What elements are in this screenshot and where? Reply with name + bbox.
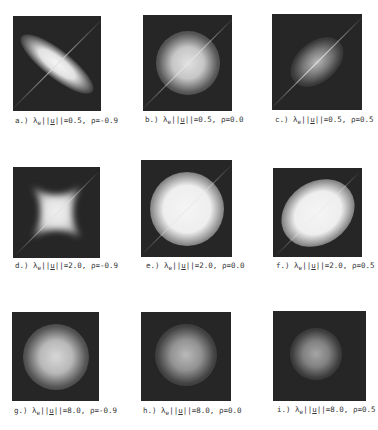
lambda-u-value: =2.0, bbox=[325, 261, 348, 270]
caption-d: d.) λe||u||=2.0, ρ=-0.9 bbox=[15, 261, 118, 271]
lambda-subscript: e bbox=[38, 264, 42, 271]
u-vector: u bbox=[50, 261, 55, 270]
lambda-subscript: e bbox=[169, 264, 173, 271]
panel-i-image bbox=[273, 311, 366, 401]
lambda-u-value: =2.0, bbox=[195, 261, 218, 270]
lambda-u-value: =8.0, bbox=[326, 405, 349, 414]
caption-letter: h.) bbox=[143, 406, 157, 415]
rho-value: ρ=-0.9 bbox=[90, 406, 117, 415]
rho-value: ρ=0.0 bbox=[221, 115, 244, 124]
caption-letter: b.) bbox=[145, 115, 159, 124]
panel-h-image bbox=[141, 312, 231, 401]
lambda-subscript: e bbox=[37, 409, 41, 416]
panel-f-image bbox=[273, 168, 362, 257]
rho-value: ρ=0.5 bbox=[351, 115, 374, 124]
caption-c: c.) λe||u||=0.5, ρ=0.5 bbox=[275, 115, 373, 125]
u-vector: u bbox=[50, 116, 55, 125]
panel-e-image bbox=[141, 160, 232, 257]
panel-d-image bbox=[13, 167, 100, 258]
caption-a: a.) λe||u||=0.5, ρ=-0.9 bbox=[15, 116, 118, 126]
rho-value: ρ=-0.9 bbox=[91, 261, 118, 270]
lambda-u-value: =8.0, bbox=[63, 406, 86, 415]
panel-c-image bbox=[272, 14, 362, 110]
caption-letter: c.) bbox=[275, 115, 289, 124]
rho-value: ρ=-0.9 bbox=[91, 116, 118, 125]
caption-g: g.) λe||u||=8.0, ρ=-0.9 bbox=[14, 406, 117, 416]
intensity-blob bbox=[23, 324, 89, 390]
u-vector: u bbox=[180, 115, 185, 124]
u-vector: u bbox=[311, 261, 316, 270]
caption-b: b.) λe||u||=0.5, ρ=0.0 bbox=[145, 115, 243, 125]
lambda-u-value: =0.5, bbox=[194, 115, 217, 124]
caption-letter: i.) bbox=[277, 405, 291, 414]
caption-e: e.) λe||u||=2.0, ρ=0.0 bbox=[146, 261, 244, 271]
lambda-u-value: =2.0, bbox=[64, 261, 87, 270]
caption-f: f.) λe||u||=2.0, ρ=0.5 bbox=[276, 261, 374, 271]
lambda-subscript: e bbox=[166, 409, 170, 416]
rho-value: ρ=0.5 bbox=[353, 405, 376, 414]
rho-value: ρ=0.0 bbox=[219, 406, 242, 415]
lambda-subscript: e bbox=[168, 118, 172, 125]
lambda-u-value: =0.5, bbox=[64, 116, 87, 125]
intensity-blob bbox=[290, 328, 342, 380]
caption-letter: f.) bbox=[276, 261, 290, 270]
lambda-u-value: =0.5, bbox=[324, 115, 347, 124]
u-vector: u bbox=[310, 115, 315, 124]
panel-a-image bbox=[13, 16, 101, 111]
lambda-subscript: e bbox=[298, 118, 302, 125]
caption-letter: e.) bbox=[146, 261, 160, 270]
panel-g-image bbox=[12, 312, 99, 401]
caption-letter: a.) bbox=[15, 116, 29, 125]
u-vector: u bbox=[49, 406, 54, 415]
caption-i: i.) λe||u||=8.0, ρ=0.5 bbox=[277, 405, 375, 415]
rho-value: ρ=0.0 bbox=[222, 261, 245, 270]
lambda-subscript: e bbox=[300, 408, 304, 415]
diagonal-streak bbox=[13, 18, 101, 111]
u-vector: u bbox=[181, 261, 186, 270]
caption-letter: g.) bbox=[14, 406, 28, 415]
panel-b-image bbox=[143, 15, 232, 111]
rho-value: ρ=0.5 bbox=[352, 261, 375, 270]
caption-letter: d.) bbox=[15, 261, 29, 270]
intensity-blob bbox=[155, 324, 217, 386]
u-vector: u bbox=[178, 406, 183, 415]
caption-h: h.) λe||u||=8.0, ρ=0.0 bbox=[143, 406, 241, 416]
diagonal-streak bbox=[272, 16, 362, 109]
lambda-subscript: e bbox=[299, 264, 303, 271]
lambda-subscript: e bbox=[38, 119, 42, 126]
u-vector: u bbox=[312, 405, 317, 414]
lambda-u-value: =8.0, bbox=[192, 406, 215, 415]
